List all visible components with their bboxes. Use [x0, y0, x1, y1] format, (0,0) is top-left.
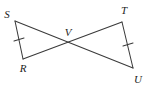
- geometry-figure: S T V R U: [0, 0, 148, 87]
- vertex-label-s: S: [4, 8, 10, 20]
- vertex-label-u: U: [134, 73, 143, 85]
- vertex-label-v: V: [65, 26, 73, 38]
- vertex-label-r: R: [19, 62, 27, 74]
- vertex-label-t: T: [121, 4, 128, 16]
- geometry-canvas: S T V R U: [0, 0, 148, 87]
- segment-TR: [23, 22, 122, 59]
- segment-SU: [15, 21, 133, 68]
